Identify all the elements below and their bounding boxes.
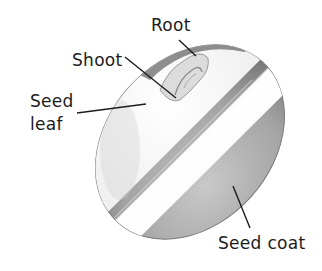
seed-body [57, 0, 322, 271]
seed-illustration [0, 0, 322, 271]
root-label: Root [151, 15, 191, 35]
seed-leaf-label-line1: Seed [30, 91, 74, 111]
seed-leaf-label-line2: leaf [30, 114, 63, 134]
seed-coat-label: Seed coat [218, 233, 305, 253]
shoot-label: Shoot [72, 50, 123, 70]
